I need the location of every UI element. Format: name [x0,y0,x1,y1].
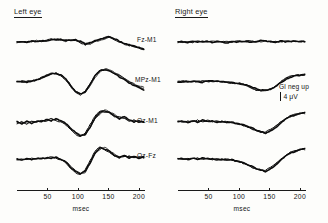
x-axis-caption-left: msec [73,205,90,212]
axis-line [17,190,145,191]
waveform-trace [178,149,305,172]
axis-tick [108,188,109,191]
axis-line [178,190,306,191]
axis-tick-label: 100 [233,193,245,200]
scale-bar-group: Gl neg up 4 μV [279,83,309,101]
axis-tick-label: 150 [263,193,275,200]
axis-tick [269,188,270,191]
x-axis-caption-right: msec [234,205,251,212]
axis-tick [239,188,240,191]
axis-tick-label: 200 [294,193,306,200]
waveform-trace [17,147,144,173]
waveform-trace [178,113,305,134]
axis-tick-label: 200 [133,193,145,200]
waveform-oz-fz [176,132,316,188]
waveform-trace [17,148,144,174]
axis-tick-label: 100 [72,193,84,200]
axis-tick [139,188,140,191]
waveform-trace [17,147,144,174]
x-axis-left: 50100150200 [17,190,145,204]
amplitude-scale-bar [280,92,281,101]
vep-figure: Left eye Right eye Fz-M1 MPz-M1 Oz-M1 Oz… [0,0,328,223]
x-axis-right: 50100150200 [178,190,306,204]
axis-tick-label: 50 [43,193,51,200]
waveform-trace [17,70,144,94]
waveform-trace [178,149,305,172]
axis-tick-label: 150 [102,193,114,200]
polarity-note: Gl neg up [279,83,309,90]
axis-tick [208,188,209,191]
waveform-oz-fz [15,132,155,188]
waveform-trace [17,70,144,96]
axis-tick-label: 50 [204,193,212,200]
amplitude-scale-label: 4 μV [283,93,298,100]
axis-tick [78,188,79,191]
axis-tick [300,188,301,191]
waveform-trace [17,69,144,94]
axis-tick [47,188,48,191]
